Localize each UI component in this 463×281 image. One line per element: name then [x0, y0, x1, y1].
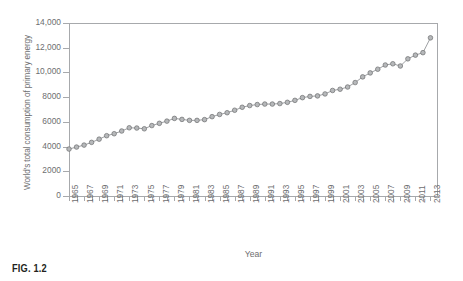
data-point-marker	[150, 123, 155, 128]
x-axis-title: Year	[69, 249, 438, 259]
data-point-marker	[195, 118, 200, 123]
data-point-marker	[330, 88, 335, 93]
data-point-marker	[285, 100, 290, 105]
data-point-marker	[391, 61, 396, 66]
data-point-marker	[97, 137, 102, 142]
data-point-marker	[421, 50, 426, 55]
data-point-marker	[202, 117, 207, 122]
series-markers	[67, 36, 433, 152]
data-point-marker	[293, 98, 298, 103]
data-point-marker	[428, 36, 433, 41]
data-point-marker	[263, 102, 268, 107]
data-point-marker	[67, 147, 72, 152]
data-point-marker	[375, 67, 380, 72]
data-point-marker	[142, 126, 147, 131]
data-point-marker	[368, 71, 373, 76]
data-point-marker	[74, 145, 79, 150]
figure-caption: FIG. 1.2	[12, 262, 47, 274]
data-point-marker	[210, 114, 215, 119]
figure-container: World's total consumption of primary ene…	[0, 0, 463, 281]
data-point-marker	[308, 94, 313, 99]
data-point-marker	[247, 103, 252, 108]
data-point-marker	[187, 118, 192, 123]
data-point-marker	[338, 87, 343, 92]
data-point-marker	[360, 75, 365, 80]
data-point-marker	[104, 133, 109, 138]
data-point-marker	[134, 126, 139, 131]
data-point-marker	[157, 121, 162, 126]
data-point-marker	[217, 112, 222, 117]
data-point-marker	[323, 92, 328, 97]
data-point-marker	[89, 140, 94, 145]
data-point-marker	[353, 80, 358, 85]
data-point-marker	[345, 85, 350, 90]
data-point-marker	[278, 101, 283, 106]
data-point-marker	[82, 143, 87, 148]
data-point-marker	[398, 64, 403, 69]
data-point-marker	[232, 108, 237, 113]
data-point-marker	[300, 95, 305, 100]
data-point-marker	[383, 63, 388, 68]
data-point-marker	[240, 105, 245, 110]
data-point-marker	[255, 102, 260, 107]
chart-data-layer	[0, 0, 463, 281]
data-point-marker	[180, 117, 185, 122]
data-point-marker	[315, 94, 320, 99]
data-point-marker	[270, 102, 275, 107]
data-point-marker	[406, 57, 411, 62]
data-point-marker	[225, 110, 230, 115]
data-point-marker	[127, 125, 132, 130]
data-point-marker	[413, 53, 418, 58]
data-point-marker	[119, 129, 124, 134]
data-point-marker	[112, 131, 117, 136]
data-point-marker	[165, 119, 170, 124]
data-point-marker	[172, 116, 177, 121]
